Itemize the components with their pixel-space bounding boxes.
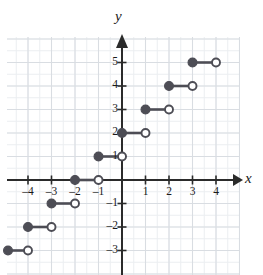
closed-endpoint <box>47 199 56 208</box>
open-endpoint <box>165 106 173 114</box>
y-tick-label: 1 <box>98 149 118 161</box>
y-tick-label: –3 <box>98 243 118 255</box>
graph-figure: y x –4–3–2–11234–3–2–112345 <box>0 0 263 275</box>
open-endpoint <box>95 176 103 184</box>
x-tick-label: –3 <box>42 185 62 197</box>
y-tick-label: 3 <box>98 102 118 114</box>
closed-endpoint <box>24 223 33 232</box>
step-function-plot <box>0 0 263 275</box>
open-endpoint <box>212 59 220 67</box>
closed-endpoint <box>165 82 174 91</box>
x-tick-label: 2 <box>159 185 179 197</box>
open-endpoint <box>48 223 56 231</box>
x-tick-label: 4 <box>206 185 226 197</box>
x-tick-label: –2 <box>65 185 85 197</box>
y-tick-label: –1 <box>98 196 118 208</box>
closed-endpoint <box>141 105 150 114</box>
closed-endpoint <box>4 246 13 255</box>
y-tick-label: 5 <box>98 55 118 67</box>
x-tick-label: 3 <box>183 185 203 197</box>
closed-endpoint <box>188 58 197 67</box>
closed-endpoint <box>118 129 127 138</box>
open-endpoint <box>71 200 79 208</box>
x-tick-label: 1 <box>136 185 156 197</box>
x-tick-label: –4 <box>18 185 38 197</box>
y-tick-label: 4 <box>98 78 118 90</box>
closed-endpoint <box>71 176 80 185</box>
open-endpoint <box>118 153 126 161</box>
open-endpoint <box>189 82 197 90</box>
y-tick-label: 2 <box>98 125 118 137</box>
y-axis-label: y <box>115 8 122 25</box>
x-axis-label: x <box>245 170 252 187</box>
open-endpoint <box>24 247 32 255</box>
open-endpoint <box>142 129 150 137</box>
y-tick-label: –2 <box>98 219 118 231</box>
